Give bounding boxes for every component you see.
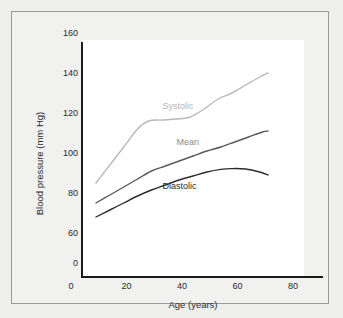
y-tick-60: 60 <box>52 229 78 238</box>
y-axis-title: Blood pressure (mm Hg) <box>34 74 45 254</box>
x-tick-60: 60 <box>225 282 251 291</box>
x-tick-0: 0 <box>58 282 84 291</box>
y-tick-80: 80 <box>52 189 78 198</box>
y-tick-100: 100 <box>52 149 78 158</box>
y-tick-0: 0 <box>52 259 78 268</box>
series-label-diastolic: Diastolic <box>163 182 197 191</box>
plot-area <box>82 40 304 277</box>
x-tick-40: 40 <box>169 282 195 291</box>
y-tick-140: 140 <box>52 69 78 78</box>
x-axis-title: Age (years) <box>82 299 304 310</box>
series-label-systolic: Systolic <box>163 102 194 111</box>
x-axis-line <box>81 276 323 278</box>
figure-container: 06080100120140160 020406080 Blood pressu… <box>0 0 343 318</box>
x-tick-20: 20 <box>114 282 140 291</box>
y-tick-120: 120 <box>52 109 78 118</box>
y-axis-line <box>81 42 83 278</box>
series-label-mean: Mean <box>176 138 199 147</box>
y-tick-160: 160 <box>52 29 78 38</box>
y-axis-tick-labels: 06080100120140160 <box>50 12 78 318</box>
x-tick-80: 80 <box>280 282 306 291</box>
figure-border: 06080100120140160 020406080 Blood pressu… <box>11 11 329 304</box>
